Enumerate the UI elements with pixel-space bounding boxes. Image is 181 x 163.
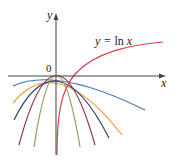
y-axis-arrow-icon	[54, 13, 59, 20]
parabola-1	[13, 80, 145, 110]
y-axis-label: y	[47, 8, 52, 23]
curve-label: y = ln x	[95, 34, 132, 49]
x-axis-label: x	[161, 76, 166, 91]
curve-label-prefix: y =	[95, 34, 114, 48]
curve-label-var: x	[124, 34, 132, 48]
curve-label-fn: ln	[114, 34, 123, 48]
origin-label: 0	[46, 62, 52, 74]
plot-canvas	[0, 0, 181, 163]
diagram: y 0 x y = ln x	[0, 0, 181, 163]
ln-x-curve	[57, 42, 163, 155]
